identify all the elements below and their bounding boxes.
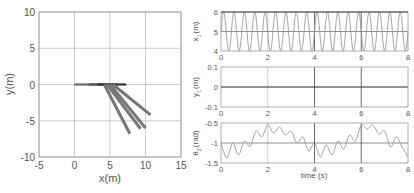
- y-tick-label: 5: [29, 43, 35, 54]
- time-axis-label: time (s): [301, 171, 328, 180]
- y-tick-label: -0.5: [205, 119, 218, 128]
- y-axis-label: x1(m): [191, 21, 202, 41]
- x-tick-label: 15: [175, 160, 187, 171]
- x-tick-label: -5: [35, 160, 44, 171]
- y-tick-label: -10: [21, 152, 36, 163]
- x-tick-label: 0: [72, 160, 78, 171]
- x-tick-label: 0: [219, 53, 223, 62]
- y-tick-label: 6: [214, 8, 218, 17]
- y-tick-label: -0.1: [205, 103, 218, 112]
- x-tick-labels: -5051015: [35, 160, 187, 171]
- y-tick-label: 0.1: [208, 63, 218, 72]
- x-tick-label: 10: [140, 160, 152, 171]
- x-tick-label: 0: [219, 109, 223, 118]
- x-tick-label: 6: [359, 165, 363, 174]
- y-tick-label: 4: [214, 47, 218, 56]
- x-tick-label: 4: [312, 53, 316, 62]
- x1-plot: 02468654x1(m): [191, 8, 410, 62]
- y-tick-labels: 1050-5-10: [21, 7, 36, 163]
- x-tick-label: 8: [406, 165, 410, 174]
- x-axis-label: x(m): [99, 172, 121, 184]
- y-tick-label: -1.5: [205, 159, 218, 168]
- y-axis-label: θ2(rad): [191, 130, 202, 156]
- x-tick-label: 0: [219, 165, 223, 174]
- y-axis-label: y(m): [3, 73, 15, 95]
- x-tick-label: 8: [406, 53, 410, 62]
- x-tick-label: 2: [266, 53, 270, 62]
- y-axis-label: y1(m): [191, 77, 202, 97]
- y-tick-label: 5: [214, 28, 218, 37]
- y-tick-label: 0: [29, 80, 35, 91]
- trajectory-plot: -5051015 1050-5-10 x(m) y(m): [3, 7, 187, 184]
- x-tick-label: 4: [312, 109, 316, 118]
- x-tick-label: 2: [266, 165, 270, 174]
- y-tick-label: -1: [211, 139, 218, 148]
- y-tick-label: 10: [24, 7, 36, 18]
- x-tick-label: 2: [266, 109, 270, 118]
- theta2-plot: 02468-0.5-1-1.5θ2(rad): [191, 119, 410, 174]
- x-tick-label: 8: [406, 109, 410, 118]
- x-tick-label: 5: [107, 160, 113, 171]
- y-tick-label: 0: [214, 83, 218, 92]
- y-tick-label: -5: [26, 116, 35, 127]
- x-tick-label: 6: [359, 109, 363, 118]
- pendulum-links: [104, 85, 150, 134]
- x-tick-label: 6: [359, 53, 363, 62]
- y1-plot: 024680.10-0.1y1(m): [191, 63, 410, 118]
- figure: -5051015 1050-5-10 x(m) y(m) 02468654x1(…: [0, 0, 414, 193]
